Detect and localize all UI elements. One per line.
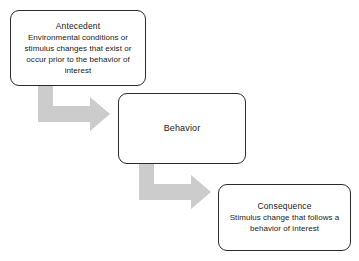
abc-contingency-diagram: Antecedent Environmental conditions or s… — [0, 0, 359, 261]
node-behavior[interactable]: Behavior — [118, 93, 246, 164]
arrow-behavior-to-consequence — [139, 162, 211, 209]
node-consequence-body: Stimulus change that follows a behavior … — [225, 212, 344, 234]
node-behavior-title: Behavior — [164, 123, 201, 134]
node-antecedent-title: Antecedent — [56, 21, 101, 32]
arrow-antecedent-to-behavior — [38, 84, 110, 131]
node-consequence[interactable]: Consequence Stimulus change that follows… — [218, 184, 351, 251]
node-antecedent-body: Environmental conditions or stimulus cha… — [17, 32, 139, 76]
node-consequence-title: Consequence — [257, 201, 311, 212]
node-antecedent[interactable]: Antecedent Environmental conditions or s… — [10, 10, 146, 86]
